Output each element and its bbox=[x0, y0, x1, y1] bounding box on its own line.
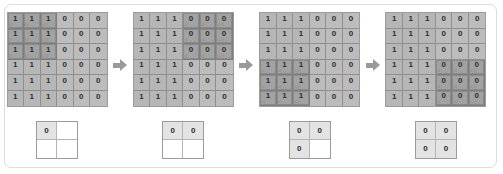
input-cell-value: 1 bbox=[299, 77, 303, 85]
input-cell: 0 bbox=[90, 44, 107, 60]
input-cell-value: 1 bbox=[156, 61, 160, 69]
input-cell-kernel: 1x1 bbox=[8, 44, 25, 60]
input-matrix: 1110x10x00x(-1)1110x10x00x(-1)1110x10x00… bbox=[133, 12, 234, 107]
input-cell-value: 1 bbox=[172, 93, 176, 101]
arrow-right-icon bbox=[366, 59, 380, 71]
input-cell-value: 1 bbox=[282, 92, 286, 100]
input-cell-value: 0 bbox=[332, 93, 336, 101]
input-cell: 1 bbox=[8, 60, 25, 76]
input-cell-kernel: 1x0 bbox=[277, 75, 294, 91]
input-cell-value: 0 bbox=[349, 15, 353, 23]
input-cell-value: 1 bbox=[392, 46, 396, 54]
input-cell-value: 0 bbox=[96, 77, 100, 85]
input-cell: 1 bbox=[403, 13, 420, 29]
input-cell-value: 0 bbox=[474, 61, 478, 69]
arrow-right-icon bbox=[239, 59, 253, 71]
input-cell-value: 1 bbox=[266, 92, 270, 100]
input-cell: 0 bbox=[216, 91, 233, 107]
input-cell-value: 0 bbox=[441, 92, 445, 100]
kernel-weight-label: x(-1) bbox=[42, 39, 48, 42]
input-cell-value: 0 bbox=[189, 93, 193, 101]
input-cell: 1 bbox=[403, 75, 420, 91]
input-cell: 0 bbox=[452, 29, 469, 45]
input-cell-value: 0 bbox=[475, 15, 479, 23]
input-cell: 0 bbox=[436, 44, 453, 60]
input-cell: 0 bbox=[343, 75, 360, 91]
kernel-weight-label: x0 bbox=[201, 55, 204, 58]
input-cell-kernel: 1x0 bbox=[277, 60, 294, 76]
input-cell-value: 1 bbox=[408, 61, 412, 69]
input-cell: 0 bbox=[200, 60, 217, 76]
input-cell-value: 0 bbox=[63, 30, 67, 38]
input-cell-value: 0 bbox=[189, 61, 193, 69]
input-cell-value: 0 bbox=[315, 61, 319, 69]
input-cell: 0 bbox=[74, 75, 91, 91]
input-cell-kernel: 0x0 bbox=[452, 91, 469, 107]
input-cell-value: 1 bbox=[13, 30, 17, 38]
input-cell: 1 bbox=[167, 13, 184, 29]
kernel-weight-label: x(-1) bbox=[470, 86, 476, 89]
input-cell-value: 1 bbox=[408, 30, 412, 38]
input-cell: 0 bbox=[90, 91, 107, 107]
input-cell-value: 0 bbox=[349, 61, 353, 69]
kernel-weight-label: x1 bbox=[9, 55, 12, 58]
input-cell: 0 bbox=[310, 91, 327, 107]
input-cell-kernel: 1x1 bbox=[8, 13, 25, 29]
input-matrix: 1110001110001110001110x10x00x(-1)1110x10… bbox=[385, 12, 486, 107]
input-cell-kernel: 0x1 bbox=[436, 60, 453, 76]
output-cell-filled: 0 bbox=[290, 140, 310, 158]
input-cell-value: 1 bbox=[408, 15, 412, 23]
input-cell-value: 0 bbox=[222, 93, 226, 101]
input-cell-value: 0 bbox=[96, 15, 100, 23]
input-cell-value: 1 bbox=[172, 15, 176, 23]
input-cell-value: 1 bbox=[156, 30, 160, 38]
input-cell-value: 0 bbox=[441, 30, 445, 38]
input-cell-value: 0 bbox=[205, 46, 209, 54]
input-cell-kernel: 0x1 bbox=[436, 75, 453, 91]
input-cell-value: 1 bbox=[30, 93, 34, 101]
input-cell: 0 bbox=[310, 29, 327, 45]
input-cell-value: 0 bbox=[205, 77, 209, 85]
input-cell: 1 bbox=[419, 60, 436, 76]
input-cell-value: 0 bbox=[63, 77, 67, 85]
input-cell-kernel: 0x1 bbox=[436, 91, 453, 107]
kernel-weight-label: x0 bbox=[201, 39, 204, 42]
input-cell-value: 0 bbox=[222, 15, 226, 23]
input-cell-value: 1 bbox=[282, 61, 286, 69]
input-cell: 1 bbox=[24, 60, 41, 76]
input-cell-value: 1 bbox=[425, 46, 429, 54]
output-cell-empty bbox=[310, 140, 330, 158]
input-cell-kernel: 0x1 bbox=[183, 13, 200, 29]
input-cell-kernel: 0x(-1) bbox=[216, 44, 233, 60]
output-cell-empty bbox=[57, 122, 77, 140]
input-cell-value: 1 bbox=[282, 77, 286, 85]
input-cell-value: 1 bbox=[156, 46, 160, 54]
input-cell-value: 0 bbox=[96, 93, 100, 101]
input-cell-kernel: 0x(-1) bbox=[469, 75, 486, 91]
input-cell: 1 bbox=[134, 13, 151, 29]
input-cell-kernel: 0x(-1) bbox=[216, 13, 233, 29]
input-cell: 1 bbox=[150, 91, 167, 107]
input-cell-value: 1 bbox=[392, 30, 396, 38]
step-2: 1110x10x00x(-1)1110x10x00x(-1)1110x10x00… bbox=[131, 5, 235, 159]
input-cell: 0 bbox=[343, 91, 360, 107]
input-cell-value: 0 bbox=[458, 46, 462, 54]
steps-row: 1x11x01x(-1)0001x11x01x(-1)0001x11x01x(-… bbox=[5, 5, 488, 159]
input-cell: 1 bbox=[8, 91, 25, 107]
step-4: 1110001110001110001110x10x00x(-1)1110x10… bbox=[384, 5, 488, 159]
input-cell-value: 1 bbox=[172, 46, 176, 54]
input-cell-value: 1 bbox=[266, 77, 270, 85]
input-cell: 1 bbox=[260, 29, 277, 45]
input-cell-value: 1 bbox=[156, 93, 160, 101]
kernel-weight-label: x1 bbox=[184, 55, 187, 58]
input-cell: 0 bbox=[436, 29, 453, 45]
input-cell-value: 0 bbox=[63, 93, 67, 101]
input-cell-kernel: 0x1 bbox=[183, 29, 200, 45]
input-cell-value: 0 bbox=[63, 46, 67, 54]
input-cell-kernel: 0x0 bbox=[452, 60, 469, 76]
input-cell-kernel: 1x(-1) bbox=[293, 75, 310, 91]
input-cell-value: 1 bbox=[13, 46, 17, 54]
input-cell-value: 0 bbox=[79, 46, 83, 54]
input-cell: 0 bbox=[326, 75, 343, 91]
input-cell: 0 bbox=[57, 60, 74, 76]
